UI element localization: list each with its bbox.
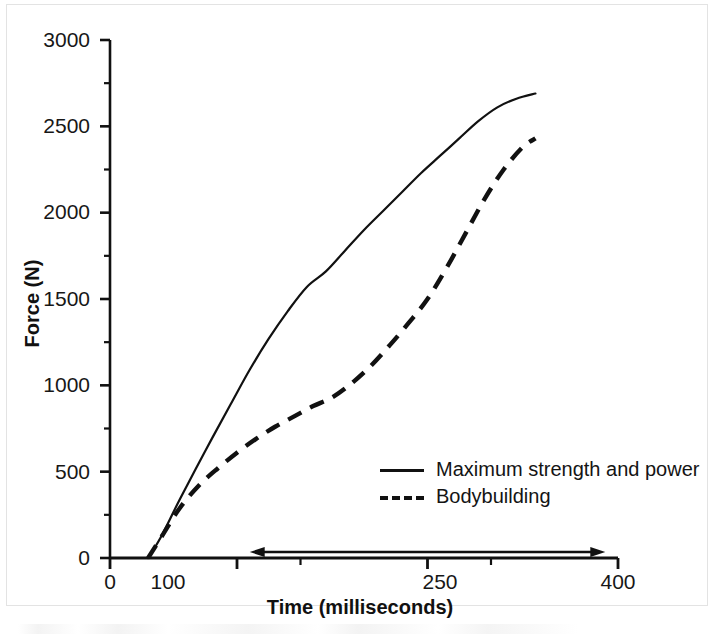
legend-swatch-solid-line-icon (380, 469, 424, 472)
x-tick-label-100: 100 (136, 570, 200, 594)
y-tick-label-1000: 1000 (28, 373, 90, 397)
y-axis-major-ticks (100, 40, 110, 558)
y-tick-label-3000: 3000 (28, 28, 90, 52)
y-axis-title: Force (N) (21, 244, 44, 364)
x-tick-label-250: 250 (408, 570, 472, 594)
plot-area (0, 0, 720, 638)
x-tick-label-400: 400 (586, 570, 650, 594)
x-axis-major-ticks (110, 558, 618, 569)
legend-label: Maximum strength and power (436, 458, 699, 481)
x-tick-label-0: 0 (86, 570, 134, 594)
time-range-arrow (250, 547, 606, 557)
y-tick-label-500: 500 (28, 460, 90, 484)
y-tick-label-2000: 2000 (28, 200, 90, 224)
y-tick-label-0: 0 (28, 546, 90, 570)
legend-swatch-dashed-line-icon (380, 496, 424, 500)
y-tick-label-2500: 2500 (28, 114, 90, 138)
x-axis-title: Time (milliseconds) (200, 596, 520, 619)
force-time-chart-figure: 3000 2500 2000 1500 1000 500 0 0 100 250… (0, 0, 720, 638)
legend-label: Bodybuilding (436, 485, 551, 508)
